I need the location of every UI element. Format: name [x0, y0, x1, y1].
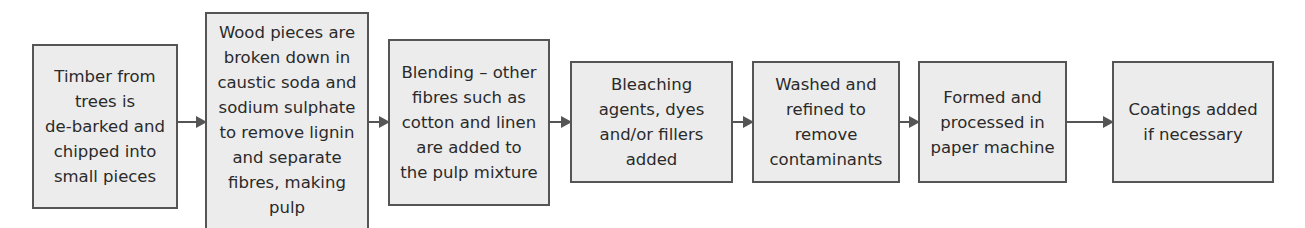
step-2-box: Wood pieces are broken down in caustic s… [205, 12, 369, 228]
step-2-line-2: broken down in [217, 45, 356, 70]
step-2-line-6: and separate [217, 145, 356, 170]
step-2-text: Wood pieces are broken down in caustic s… [217, 20, 356, 220]
step-1-line-2: trees is [45, 89, 165, 114]
step-4-line-2: agents, dyes [599, 97, 705, 122]
arrow-5-to-6 [900, 121, 918, 123]
step-6-line-3: paper machine [930, 135, 1054, 160]
step-5-text: Washed and refined to remove contaminant… [770, 72, 883, 172]
step-3-line-5: the pulp mixture [400, 160, 537, 185]
step-2-line-3: caustic soda and [217, 70, 356, 95]
arrow-1-to-2 [178, 121, 205, 123]
step-3-text: Blending – other fibres such as cotton a… [400, 60, 537, 185]
step-5-line-3: remove [770, 122, 883, 147]
step-2-line-1: Wood pieces are [217, 20, 356, 45]
step-7-box: Coatings added if necessary [1112, 61, 1274, 183]
step-7-line-2: if necessary [1128, 122, 1257, 147]
step-7-line-1: Coatings added [1128, 97, 1257, 122]
step-3-line-4: are added to [400, 135, 537, 160]
step-2-line-5: to remove lignin [217, 120, 356, 145]
step-6-line-1: Formed and [930, 85, 1054, 110]
step-2-line-4: sodium sulphate [217, 95, 356, 120]
step-5-line-4: contaminants [770, 147, 883, 172]
step-6-box: Formed and processed in paper machine [918, 61, 1067, 183]
step-4-line-4: added [599, 147, 705, 172]
step-1-line-3: de-barked and [45, 114, 165, 139]
step-6-text: Formed and processed in paper machine [930, 85, 1054, 160]
step-4-box: Bleaching agents, dyes and/or fillers ad… [570, 61, 733, 183]
step-3-line-2: fibres such as [400, 85, 537, 110]
step-6-line-2: processed in [930, 110, 1054, 135]
step-3-line-1: Blending – other [400, 60, 537, 85]
step-3-box: Blending – other fibres such as cotton a… [388, 39, 550, 206]
arrow-3-to-4 [550, 121, 570, 123]
step-5-line-1: Washed and [770, 72, 883, 97]
step-3-line-3: cotton and linen [400, 110, 537, 135]
step-7-text: Coatings added if necessary [1128, 97, 1257, 147]
step-5-box: Washed and refined to remove contaminant… [752, 61, 900, 183]
arrow-2-to-3 [369, 121, 388, 123]
step-1-box: Timber from trees is de-barked and chipp… [32, 44, 178, 209]
step-5-line-2: refined to [770, 97, 883, 122]
step-1-line-4: chipped into [45, 139, 165, 164]
step-2-line-8: pulp [217, 195, 356, 220]
arrow-4-to-5 [733, 121, 752, 123]
step-1-line-1: Timber from [45, 64, 165, 89]
step-2-line-7: fibres, making [217, 170, 356, 195]
step-1-line-5: small pieces [45, 164, 165, 189]
step-4-line-3: and/or fillers [599, 122, 705, 147]
step-4-line-1: Bleaching [599, 72, 705, 97]
step-1-text: Timber from trees is de-barked and chipp… [45, 64, 165, 189]
arrow-6-to-7 [1067, 121, 1112, 123]
step-4-text: Bleaching agents, dyes and/or fillers ad… [599, 72, 705, 172]
